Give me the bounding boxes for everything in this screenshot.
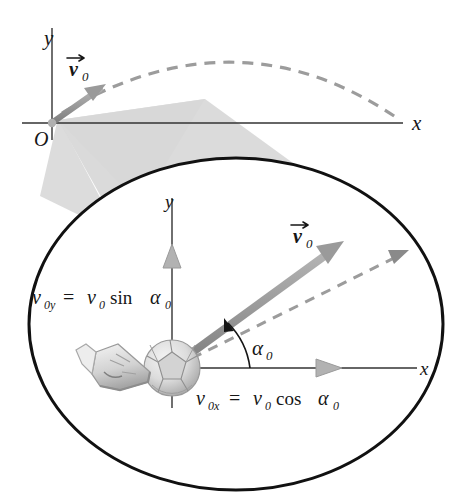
svg-text:v: v <box>253 387 262 409</box>
projectile-motion-figure: y x O v 0 <box>0 0 467 499</box>
svg-text:cos: cos <box>276 388 301 409</box>
svg-text:0: 0 <box>266 348 273 363</box>
svg-text:=: = <box>229 387 240 409</box>
svg-text:α: α <box>252 336 264 360</box>
overview-origin-label: O <box>34 128 48 150</box>
magnifier-y-axis-label: y <box>163 191 174 212</box>
soccer-ball <box>144 340 200 396</box>
svg-text:v: v <box>32 286 41 308</box>
svg-text:0y: 0y <box>44 298 56 312</box>
svg-text:0: 0 <box>99 298 105 312</box>
overview-launch-point <box>48 119 56 127</box>
svg-text:sin: sin <box>110 287 133 308</box>
svg-text:v: v <box>196 387 205 409</box>
overview-x-axis-label: x <box>411 111 422 135</box>
svg-text:α: α <box>150 286 161 308</box>
svg-text:0: 0 <box>165 298 171 312</box>
svg-text:0: 0 <box>82 69 89 84</box>
overview-trajectory-path <box>62 62 400 120</box>
overview-y-axis-label: y <box>42 26 54 50</box>
svg-text:v: v <box>69 58 79 80</box>
svg-text:v: v <box>293 225 303 247</box>
overview-velocity-label: v 0 <box>67 55 89 84</box>
svg-text:α: α <box>318 387 329 409</box>
svg-text:0: 0 <box>265 399 271 413</box>
svg-text:0: 0 <box>333 399 339 413</box>
svg-text:0x: 0x <box>208 399 220 413</box>
svg-text:0: 0 <box>306 236 313 251</box>
svg-text:=: = <box>63 286 74 308</box>
svg-text:v: v <box>87 286 96 308</box>
magnifier-x-axis-label: x <box>419 358 429 379</box>
overview-panel <box>22 28 403 140</box>
